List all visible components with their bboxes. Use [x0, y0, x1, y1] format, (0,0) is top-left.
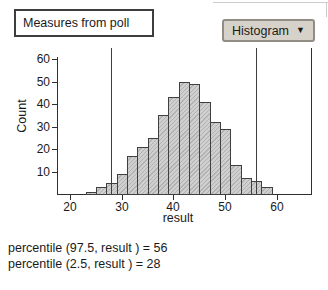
percentile-97-5-line: percentile (97.5, result ) = 56	[8, 240, 320, 256]
y-axis-tick	[52, 82, 57, 83]
x-tick-label: 30	[109, 201, 135, 214]
y-axis-line	[57, 57, 58, 194]
fathom-histogram-window: Measures from poll Histogram ▼ 102030405…	[0, 0, 328, 290]
percentile-ref-line[interactable]	[111, 48, 112, 194]
y-axis-tick	[52, 172, 57, 173]
x-tick-label: 60	[264, 201, 290, 214]
y-axis-tick	[52, 104, 57, 105]
percentile-2-5-line: percentile (2.5, result ) = 28	[8, 256, 320, 272]
histogram-plot-area: 1020304050602030405060	[0, 0, 328, 240]
x-axis-title: result	[153, 211, 203, 225]
y-axis-tick	[52, 127, 57, 128]
x-tick-label: 20	[57, 201, 83, 214]
percentile-formulas: percentile (97.5, result ) = 56 percenti…	[8, 240, 320, 272]
y-tick-label: 60	[28, 53, 50, 66]
plot-right-edge	[311, 48, 312, 195]
y-axis-tick	[52, 59, 57, 60]
y-tick-label: 50	[28, 76, 50, 89]
y-axis-tick	[52, 149, 57, 150]
histogram-bar[interactable]	[261, 187, 273, 195]
y-tick-label: 10	[28, 166, 50, 179]
percentile-ref-line[interactable]	[256, 48, 257, 194]
y-tick-label: 30	[28, 121, 50, 134]
y-tick-label: 40	[28, 98, 50, 111]
x-tick-label: 50	[212, 201, 238, 214]
y-tick-label: 20	[28, 143, 50, 156]
y-axis-title: Count	[15, 86, 29, 146]
